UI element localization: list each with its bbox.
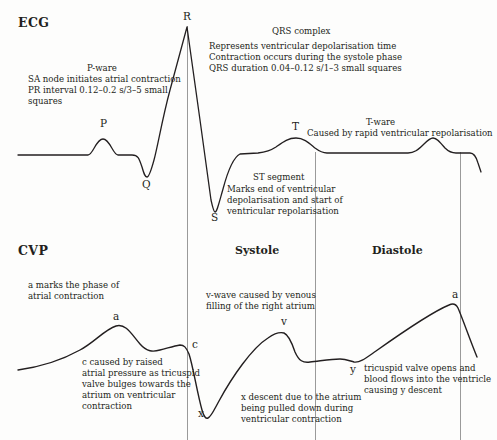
annotation-t-wave-title: T-ware bbox=[366, 117, 395, 128]
annotation-y-line2: blood flows into the ventricle bbox=[364, 374, 491, 385]
cvp-label-y: y bbox=[350, 363, 356, 376]
ecg-label-s: S bbox=[211, 211, 218, 224]
ecg-label-r: R bbox=[183, 10, 191, 23]
annotation-c-line4: atrium on ventricular bbox=[82, 390, 175, 401]
annotation-x-line3: ventricular contraction bbox=[241, 414, 342, 425]
annotation-y-line1: tricuspid valve opens and bbox=[364, 363, 476, 374]
annotation-qrs-line2: Contraction occurs during the systole ph… bbox=[209, 52, 402, 63]
ecg-label-q: Q bbox=[142, 178, 151, 191]
cvp-label-v: v bbox=[281, 315, 287, 328]
ecg-cvp-diagram: ECG P Q R S T P-ware SA node initiates a… bbox=[0, 0, 497, 440]
annotation-x-line2: being pulled down during bbox=[241, 403, 353, 414]
annotation-p-wave-title: P-ware bbox=[87, 63, 117, 74]
ecg-label-t: T bbox=[292, 120, 299, 133]
annotation-qrs-line3: QRS duration 0.04–0.12 s/1–3 small squar… bbox=[209, 63, 402, 74]
annotation-v-line1: v-wave caused by venous bbox=[206, 290, 316, 301]
annotation-y-line3: causing y descent bbox=[364, 385, 442, 396]
phase-title-systole: Systole bbox=[235, 244, 279, 258]
annotation-p-wave-line1: SA node initiates atrial contraction bbox=[28, 74, 181, 85]
cvp-label-a-left: a bbox=[113, 310, 119, 323]
cvp-label-c: c bbox=[192, 338, 198, 351]
annotation-c-line2: atrial pressure as tricuspid bbox=[82, 368, 200, 379]
phase-title-diastole: Diastole bbox=[372, 244, 423, 258]
annotation-c-line5: contraction bbox=[82, 401, 132, 412]
annotation-v-line2: filling of the right atrium bbox=[206, 301, 315, 312]
annotation-st-title: ST segment bbox=[253, 172, 305, 183]
annotation-qrs-line1: Represents ventricular depolarisation ti… bbox=[209, 41, 396, 52]
cvp-label-x: x bbox=[198, 407, 204, 420]
ecg-section-title: ECG bbox=[18, 15, 49, 31]
ecg-label-p: P bbox=[100, 117, 107, 130]
annotation-st-line1: Marks end of ventricular bbox=[227, 184, 335, 195]
annotation-a-line1: a marks the phase of bbox=[28, 280, 119, 291]
cvp-label-a-right: a bbox=[452, 288, 458, 301]
annotation-p-wave-line3: squares bbox=[28, 96, 62, 107]
annotation-c-line1: c caused by raised bbox=[82, 357, 163, 368]
cvp-section-title: CVP bbox=[18, 243, 48, 259]
annotation-p-wave-line2: PR interval 0.12–0.2 s/3–5 small bbox=[28, 85, 168, 96]
annotation-t-wave-line1: Caused by rapid ventricular repolarisati… bbox=[307, 128, 493, 139]
annotation-st-line3: ventricular repolarisation bbox=[227, 206, 339, 217]
annotation-a-line2: atrial contraction bbox=[28, 291, 104, 302]
annotation-c-line3: valve bulges towards the bbox=[82, 379, 191, 390]
annotation-st-line2: depolarisation and start of bbox=[227, 195, 343, 206]
annotation-qrs-title: QRS complex bbox=[272, 26, 330, 37]
annotation-x-line1: x descent due to the atrium bbox=[241, 392, 361, 403]
